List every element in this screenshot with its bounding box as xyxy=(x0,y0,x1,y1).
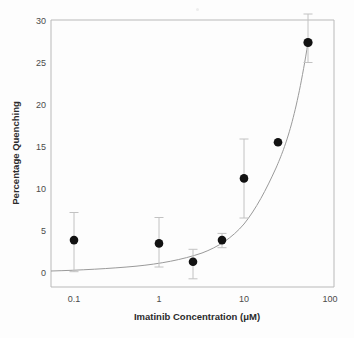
fit-curve-group xyxy=(51,43,308,272)
x-tick-label-1: 1 xyxy=(156,294,161,304)
y-tick-label-15: 15 xyxy=(36,142,46,152)
y-tick-label-30: 30 xyxy=(36,16,46,26)
y-axis-title: Percentage Quenching xyxy=(10,101,21,205)
data-point-marker-5 xyxy=(240,174,249,183)
fit-curve-path xyxy=(51,43,308,272)
data-series-percentage-quenching xyxy=(70,14,313,279)
y-tick-label-25: 25 xyxy=(36,58,46,68)
percentage-quenching-scatter-chart: 30 25 20 15 10 5 0 0.1 1 10 100 Imatinib… xyxy=(0,0,354,338)
data-point-marker-1 xyxy=(70,236,79,245)
x-axis-title: Imatinib Concentration (μM) xyxy=(134,311,260,322)
data-point-group-1 xyxy=(70,213,79,272)
x-tick-labels: 0.1 1 10 100 xyxy=(68,294,338,304)
plot-frame xyxy=(51,20,334,287)
x-tick-label-0.1: 0.1 xyxy=(68,294,81,304)
y-tick-labels: 30 25 20 15 10 5 0 xyxy=(36,16,46,278)
data-point-group-3 xyxy=(189,249,198,278)
data-point-group-5 xyxy=(240,139,249,218)
y-tick-label-10: 10 xyxy=(36,184,46,194)
x-tick-label-10: 10 xyxy=(239,294,249,304)
y-tick-label-20: 20 xyxy=(36,100,46,110)
scan-artifact-speck xyxy=(196,8,199,11)
data-point-group-6 xyxy=(274,138,283,147)
data-point-group-2 xyxy=(155,218,164,268)
axes-frame-rect xyxy=(51,20,334,287)
data-point-marker-3 xyxy=(189,258,198,267)
y-tick-label-5: 5 xyxy=(41,226,46,236)
figure-canvas: 30 25 20 15 10 5 0 0.1 1 10 100 Imatinib… xyxy=(0,0,354,338)
data-point-group-7 xyxy=(303,14,312,63)
data-point-marker-4 xyxy=(218,236,227,245)
data-point-marker-7 xyxy=(303,38,312,47)
data-point-marker-6 xyxy=(274,138,283,147)
y-tick-label-0: 0 xyxy=(41,268,46,278)
data-point-marker-2 xyxy=(155,239,164,248)
x-tick-label-100: 100 xyxy=(322,294,337,304)
